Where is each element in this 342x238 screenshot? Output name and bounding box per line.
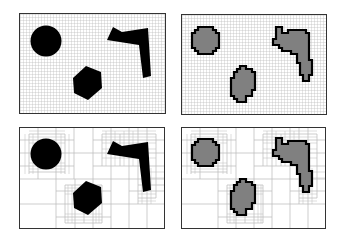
- grid-layer: [182, 15, 327, 115]
- circle-obstacle: [31, 139, 62, 170]
- panel-uniform-grid-continuous: [19, 13, 166, 114]
- panel-quadtree-continuous: [19, 127, 165, 229]
- quadtree-layer: [182, 128, 326, 229]
- grid-layer: [20, 14, 166, 114]
- circle-obstacle-discretized: [192, 27, 219, 54]
- panel-quadtree-discretized: [181, 127, 326, 229]
- hexagon-obstacle-discretized: [231, 179, 255, 215]
- hexagon-obstacle-discretized: [231, 66, 255, 102]
- hexagon-obstacle: [73, 181, 102, 215]
- circle-obstacle: [31, 26, 62, 57]
- circle-obstacle-discretized: [192, 139, 219, 166]
- quadtree-layer: [20, 128, 165, 229]
- l-shape-obstacle-discretized: [273, 138, 312, 192]
- panel-uniform-grid-discretized: [181, 14, 327, 115]
